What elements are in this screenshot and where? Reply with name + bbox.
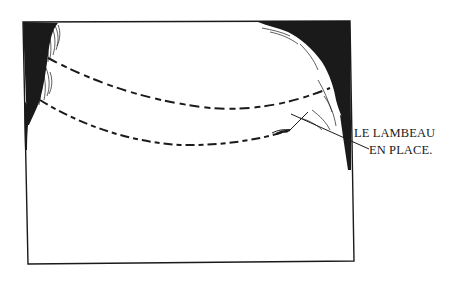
right-shadow-hatching xyxy=(258,21,351,170)
annotation-label-line2: EN PLACE. xyxy=(369,143,432,158)
annotation-label-line1: LE LAMBEAU xyxy=(354,126,435,141)
lower-incision-line xyxy=(40,100,290,145)
left-shadow-hatching xyxy=(23,22,60,150)
frame-border xyxy=(23,21,354,264)
upper-incision-line xyxy=(48,58,330,109)
